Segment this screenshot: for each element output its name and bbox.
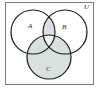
set-label-C: C xyxy=(46,66,51,73)
universe-label-U: U xyxy=(84,4,89,11)
venn-diagram-canvas xyxy=(0,0,99,93)
set-label-A: A xyxy=(28,23,32,30)
set-label-B: B xyxy=(62,24,66,31)
venn-diagram-figure: A B C U xyxy=(0,0,99,93)
